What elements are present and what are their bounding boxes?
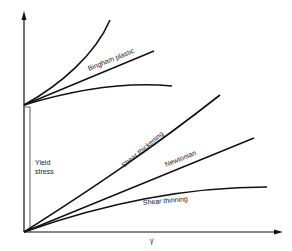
diagram-svg: Bingham plastic Shear thickening Newtoni… (0, 0, 292, 251)
label-newtonian: Newtonian (164, 149, 197, 168)
label-stress: stress (35, 168, 54, 175)
curve-bingham-plastic (24, 51, 154, 105)
label-yield: Yield (35, 159, 50, 166)
y-axis-arrow-icon (22, 11, 27, 20)
label-shear-thinning: Shear thinning (142, 195, 188, 207)
yield-stress-bracket (25, 107, 30, 232)
label-shear-thickening: Shear thickening (120, 130, 165, 170)
curve-upper-thinning (24, 85, 172, 105)
x-axis-label: γ̇ (150, 237, 155, 245)
flow-curve-diagram: Bingham plastic Shear thickening Newtoni… (0, 0, 292, 251)
x-axis-arrow-icon (274, 230, 283, 235)
